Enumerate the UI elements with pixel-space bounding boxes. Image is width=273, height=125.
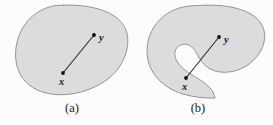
convex-blob-shape	[16, 5, 128, 95]
panel-b: x y (b)	[147, 5, 265, 115]
panel-b-caption: (b)	[191, 101, 206, 115]
point-x-label-b: x	[181, 81, 187, 92]
point-y-dot-b	[217, 35, 221, 39]
panel-a: x y (a)	[16, 5, 128, 115]
point-y-label-a: y	[97, 32, 104, 43]
point-x-label-a: x	[58, 76, 64, 87]
point-y-dot-a	[92, 33, 96, 37]
point-x-dot-b	[184, 76, 188, 80]
point-y-label-b: y	[222, 34, 229, 45]
nonconvex-kidney-shape	[147, 5, 265, 98]
panel-a-caption: (a)	[65, 101, 79, 115]
point-x-dot-a	[61, 71, 65, 75]
figure-canvas: x y (a) x y (b)	[0, 0, 273, 125]
figure-container: x y (a) x y (b)	[0, 0, 273, 125]
